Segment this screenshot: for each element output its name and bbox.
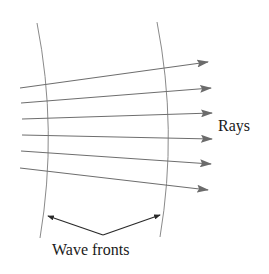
ray-arrow xyxy=(21,151,211,164)
ray-arrow xyxy=(20,62,208,88)
rays-label: Rays xyxy=(218,117,250,135)
wave-fronts-pointer xyxy=(48,215,160,235)
wavefronts xyxy=(37,22,168,238)
wave-fronts-label: Wave fronts xyxy=(52,241,129,259)
ray-arrow xyxy=(22,135,212,139)
ray-arrow xyxy=(22,113,212,119)
wavefront-right xyxy=(157,22,168,237)
ray-arrow xyxy=(21,88,211,103)
wave-diagram xyxy=(0,0,269,274)
rays xyxy=(20,62,212,190)
wavefront-left xyxy=(37,23,48,238)
ray-arrow xyxy=(20,168,208,190)
